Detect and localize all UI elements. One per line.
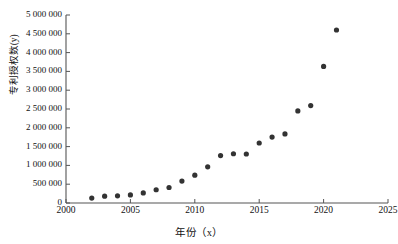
- data-point: [141, 190, 146, 195]
- data-point: [321, 64, 326, 69]
- data-point: [282, 131, 287, 136]
- data-point: [218, 153, 223, 158]
- data-point: [166, 185, 171, 190]
- data-point: [102, 194, 107, 199]
- data-point: [179, 179, 184, 184]
- data-point: [89, 195, 94, 200]
- data-point: [308, 103, 313, 108]
- data-point: [115, 193, 120, 198]
- data-point: [334, 27, 339, 32]
- data-points-group: [89, 27, 339, 200]
- scatter-chart-figure: 专利授权数(y) 年份（x） 0500 0001 000 0001 500 00…: [0, 0, 398, 244]
- plot-area: [0, 0, 398, 244]
- data-point: [231, 151, 236, 156]
- data-point: [205, 164, 210, 169]
- data-point: [244, 151, 249, 156]
- data-point: [192, 173, 197, 178]
- data-point: [257, 140, 262, 145]
- data-point: [128, 192, 133, 197]
- axis-tick-marks: [66, 15, 388, 203]
- data-point: [269, 134, 274, 139]
- data-point: [295, 108, 300, 113]
- axes-lines: [66, 15, 388, 203]
- data-point: [154, 187, 159, 192]
